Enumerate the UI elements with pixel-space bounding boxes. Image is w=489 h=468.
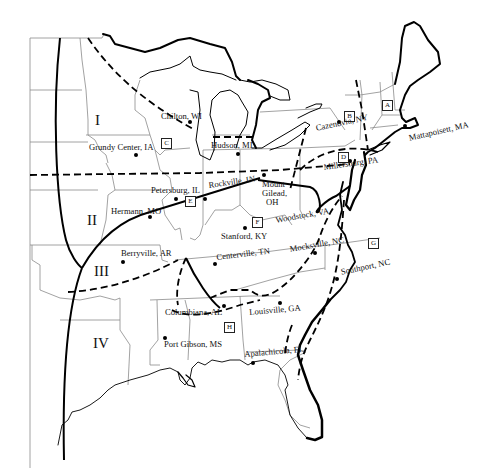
- subregion-box-A: A: [382, 100, 393, 111]
- label-columbiana-al: Columbiana, AL: [165, 308, 222, 317]
- label-stanford-ky: Stanford, KY: [221, 232, 267, 241]
- subregion-box-F: F: [252, 217, 263, 228]
- subregion-box-G: G: [368, 238, 379, 249]
- zone-label-IV: IV: [93, 336, 109, 351]
- label-mount-gilead-oh-line3: OH: [266, 198, 278, 207]
- label-chilton-wi: Chilton, WI: [161, 112, 202, 121]
- label-grundy-center-ia: Grundy Center, IA: [89, 143, 153, 152]
- zone-label-II: II: [87, 213, 97, 228]
- subregion-box-E: E: [185, 196, 196, 207]
- subregion-box-H: H: [224, 322, 235, 333]
- subregion-box-C: C: [161, 138, 172, 149]
- label-hudson-mi: Hudson, MI: [211, 141, 253, 150]
- label-berryville-ar: Berryville, AR: [121, 249, 172, 258]
- zone-label-I: I: [95, 113, 100, 128]
- label-petersburg-il: Petersburg, IL: [151, 186, 200, 195]
- label-port-gibson-ms: Port Gibson, MS: [164, 340, 222, 349]
- zone-label-III: III: [94, 264, 109, 279]
- label-hermann-mo: Hermann, MO: [111, 207, 161, 216]
